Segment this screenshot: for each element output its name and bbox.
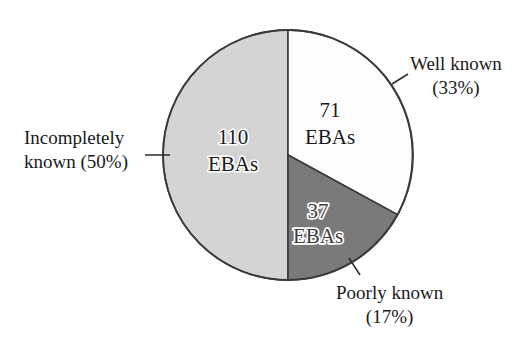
slice-value-well-known: 71 [320, 98, 341, 122]
leader-line-well-known [392, 74, 408, 84]
slice-unit-poorly-known: EBAs [293, 224, 343, 248]
callout-incompletely-known: Incompletely known (50%) [24, 126, 128, 175]
callout-incompletely-known-line2: known (50%) [24, 150, 128, 174]
callout-well-known-line1: Well known [410, 52, 502, 76]
slice-value-incompletely-known: 110 [218, 125, 249, 149]
callout-poorly-known-line2: (17%) [336, 305, 443, 329]
slice-value-poorly-known: 37 [308, 199, 329, 223]
callout-well-known-line2: (33%) [410, 76, 502, 100]
callout-poorly-known: Poorly known (17%) [336, 281, 443, 330]
pie-chart-figure: 110 EBAs 71 EBAs 37 EBAs Incompletely kn… [0, 0, 523, 339]
callout-incompletely-known-line1: Incompletely [24, 126, 128, 150]
slice-unit-incompletely-known: EBAs [208, 152, 258, 176]
slice-unit-well-known: EBAs [305, 125, 355, 149]
callout-well-known: Well known (33%) [410, 52, 502, 101]
callout-poorly-known-line1: Poorly known [336, 281, 443, 305]
